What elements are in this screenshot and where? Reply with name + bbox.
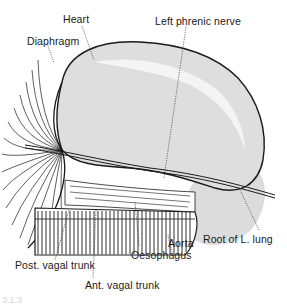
- label-diaphragm: Diaphragm: [27, 36, 79, 47]
- figure-caption: 3.1.3: [2, 296, 22, 304]
- label-heart: Heart: [63, 14, 89, 25]
- label-root-of-l-lung: Root of L. lung: [203, 234, 273, 245]
- label-aorta: Aorta: [168, 238, 194, 249]
- label-post-vagal-trunk: Post. vagal trunk: [15, 260, 95, 271]
- label-left-phrenic-nerve: Left phrenic nerve: [155, 16, 241, 27]
- label-oesophagus: Oesophagus: [131, 250, 192, 261]
- oesophagus-shape: [65, 180, 195, 212]
- label-ant-vagal-trunk: Ant. vagal trunk: [85, 280, 160, 291]
